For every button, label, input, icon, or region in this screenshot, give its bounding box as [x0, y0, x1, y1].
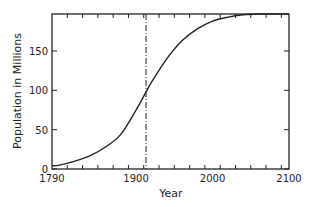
y-tick-label: 150	[29, 46, 48, 57]
x-tick-label: 1900	[123, 173, 148, 184]
plot-area: 0501001501790190020002100	[29, 14, 302, 184]
x-tick-label: 1790	[39, 173, 64, 184]
x-axis-label: Year	[158, 187, 183, 200]
population-curve	[52, 14, 289, 166]
x-tick-label: 2100	[276, 173, 301, 184]
population-chart: 0501001501790190020002100 Year Populatio…	[0, 0, 311, 207]
y-tick-label: 100	[29, 85, 48, 96]
plot-frame	[52, 14, 289, 169]
x-tick-label: 2000	[200, 173, 225, 184]
y-tick-label: 50	[35, 125, 48, 136]
y-axis-label: Population in Millions	[11, 33, 24, 149]
